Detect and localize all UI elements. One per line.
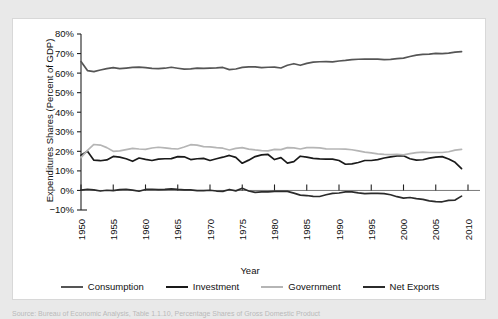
legend-item-net-exports[interactable]: Net Exports xyxy=(363,281,440,292)
x-tick-label: 1955 xyxy=(108,219,119,240)
legend-label: Consumption xyxy=(88,281,144,292)
y-tick-label: 70% xyxy=(55,48,75,59)
legend-item-consumption[interactable]: Consumption xyxy=(61,281,144,292)
legend-label: Net Exports xyxy=(390,281,440,292)
y-tick-label: 0% xyxy=(60,185,74,196)
x-tick-label: 2000 xyxy=(398,219,409,240)
y-tick-label: 20% xyxy=(55,146,75,157)
legend-swatch-icon xyxy=(363,286,385,288)
legend-swatch-icon xyxy=(61,286,83,288)
series-line-consumption xyxy=(81,52,462,72)
x-tick-label: 1995 xyxy=(366,219,377,240)
legend-label: Government xyxy=(288,281,340,292)
y-tick-label: 10% xyxy=(55,165,75,176)
x-tick-label: 1965 xyxy=(172,219,183,240)
x-tick-label: 1975 xyxy=(237,219,248,240)
y-tick-label: 80% xyxy=(55,28,75,39)
chart-card: Expenditures Shares (Percent of GDP) −10… xyxy=(12,18,486,300)
y-tick-label: 40% xyxy=(55,107,75,118)
caption-text: Source: Bureau of Economic Analysis, Tab… xyxy=(12,308,486,319)
x-axis-title: Year xyxy=(13,265,487,276)
legend-item-government[interactable]: Government xyxy=(261,281,340,292)
x-tick-label: 1990 xyxy=(334,219,345,240)
line-chart-plot: −10%0%10%20%30%40%50%60%70%80%1950195519… xyxy=(13,19,487,259)
legend-swatch-icon xyxy=(166,286,188,288)
y-tick-label: 30% xyxy=(55,126,75,137)
legend-item-investment[interactable]: Investment xyxy=(166,281,239,292)
y-tick-label: 50% xyxy=(55,87,75,98)
caption-strip: Source: Bureau of Economic Analysis, Tab… xyxy=(12,308,486,319)
x-tick-label: 1960 xyxy=(140,219,151,240)
x-tick-label: 2010 xyxy=(463,219,474,240)
x-tick-label: 1970 xyxy=(205,219,216,240)
page-root: Expenditures Shares (Percent of GDP) −10… xyxy=(0,0,498,319)
x-tick-label: 1980 xyxy=(269,219,280,240)
x-tick-label: 2005 xyxy=(430,219,441,240)
legend-label: Investment xyxy=(193,281,239,292)
legend-swatch-icon xyxy=(261,286,283,288)
x-tick-label: 1985 xyxy=(301,219,312,240)
x-tick-label: 1950 xyxy=(76,219,87,240)
y-tick-label: 60% xyxy=(55,68,75,79)
chart-legend: ConsumptionInvestmentGovernmentNet Expor… xyxy=(13,281,487,292)
y-tick-label: −10% xyxy=(49,204,74,215)
